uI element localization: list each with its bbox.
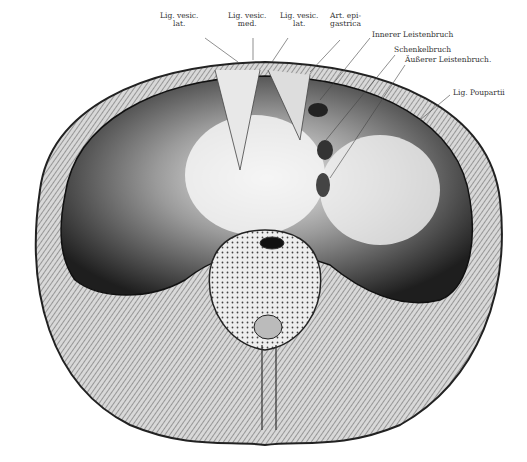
- spinal-canal: [254, 315, 282, 339]
- label-aeusserer-leistenbruch: Äußerer Leistenbruch.: [405, 56, 491, 64]
- label-lig-poupartii: Lig. Poupartii: [453, 89, 505, 97]
- label-schenkelbruch: Schenkelbruch: [394, 46, 451, 54]
- label-innerer-leistenbruch: Innerer Leistenbruch: [372, 31, 453, 39]
- right-bulge: [320, 135, 440, 245]
- bladder: [185, 115, 325, 235]
- anatomical-illustration: [0, 0, 527, 462]
- label-lig-vesic-med: Lig. vesic.med.: [228, 12, 266, 28]
- outer-inguinal-fossa: [316, 173, 330, 197]
- vessel-lumen: [260, 237, 284, 249]
- label-lig-vesic-lat-1: Lig. vesic.lat.: [160, 12, 198, 28]
- label-lig-vesic-lat-2: Lig. vesic.lat.: [280, 12, 318, 28]
- femoral-fossa: [317, 140, 333, 160]
- label-art-epigastrica: Art. epi-gastrica: [330, 12, 361, 28]
- inner-inguinal-fossa: [308, 103, 328, 117]
